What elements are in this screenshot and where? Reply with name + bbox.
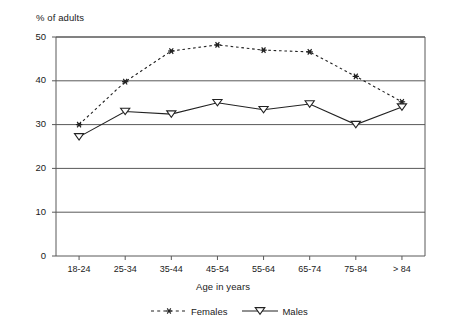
x-tick-label: 75-84 [332,264,380,274]
x-tick-label: 18-24 [55,264,103,274]
y-tick-label: 0 [22,250,46,261]
y-tick-label: 20 [22,162,46,173]
data-point-males-18-24 [74,134,83,140]
y-tick-label: 40 [22,74,46,85]
gridlines [56,37,425,212]
legend-item-males: Males [241,305,307,317]
x-axis-ticks [79,256,402,260]
y-tick-label: 50 [22,31,46,42]
data-point-males-> 84 [397,104,406,110]
data-point-females-45-54 [214,42,220,48]
chart-container: % of adults Age in years 01020304050 18-… [0,0,468,329]
chart-legend: Females Males [150,301,380,321]
legend-label-females: Females [191,306,227,317]
plot-frame [56,37,425,256]
legend-marker-females-icon [150,305,188,317]
data-point-females-65-74 [306,49,312,55]
y-axis-title: % of adults [36,12,84,23]
plot-area [0,0,468,329]
x-tick-label: 45-54 [193,264,241,274]
legend-marker-males-icon [241,305,279,317]
series-markers [74,42,406,140]
x-tick-label: 55-64 [240,264,288,274]
series-line-females [79,45,402,125]
data-point-females-18-24 [76,122,82,128]
legend-label-males: Males [282,306,307,317]
data-point-females-55-64 [260,47,266,53]
legend-item-females: Females [150,305,227,317]
x-axis-title: Age in years [196,281,250,292]
y-axis-ticks [52,37,56,256]
x-tick-label: 25-34 [101,264,149,274]
y-tick-label: 10 [22,206,46,217]
x-tick-label: > 84 [378,264,426,274]
y-tick-label: 30 [22,118,46,129]
data-point-females-75-84 [353,74,359,80]
x-tick-label: 65-74 [286,264,334,274]
x-tick-label: 35-44 [147,264,195,274]
